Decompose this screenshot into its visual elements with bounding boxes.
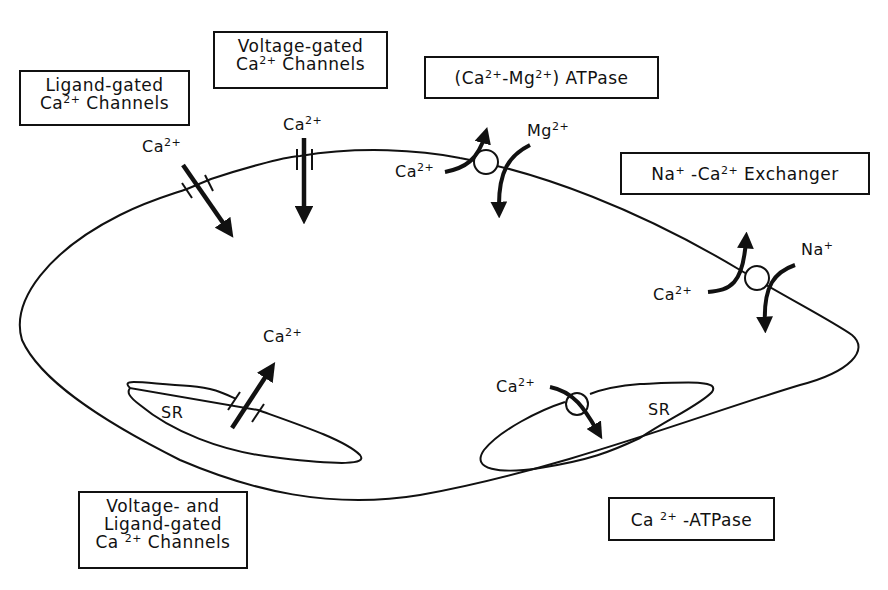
cell-membrane	[20, 150, 859, 500]
ion-label-atpase-mg: Mg2+	[527, 121, 569, 140]
ion-label-ligand-ca: Ca2+	[142, 137, 181, 156]
ligand-gated-label: Ligand-gated Ca2+ Channels	[19, 70, 190, 126]
label-line: Voltage-gated	[221, 37, 380, 55]
sr-left-label: SR	[161, 403, 183, 422]
label-line: Ca 2+ Channels	[86, 533, 240, 551]
ca-mg-atpase-transporter	[445, 135, 530, 210]
na-ca-exchanger-transporter	[708, 240, 795, 325]
voltage-ligand-gated-label: Voltage- and Ligand-gated Ca 2+ Channels	[78, 491, 248, 569]
ca-atpase-label: Ca 2+ -ATPase	[608, 497, 775, 541]
label-line: Ligand-gated	[27, 76, 182, 94]
na-ca-exchanger-label: Na+ -Ca2+ Exchanger	[620, 152, 870, 195]
ca-mg-atpase-label: (Ca2+-Mg2+) ATPase	[424, 56, 659, 99]
ion-label-exchanger-ca: Ca2+	[653, 285, 692, 304]
ion-label-atpase-ca: Ca2+	[395, 162, 434, 181]
ion-label-voltage-ca: Ca2+	[283, 115, 322, 134]
label-line: Ca2+ Channels	[27, 94, 182, 112]
label-line: Voltage- and	[86, 497, 240, 515]
ion-label-sr-uptake-ca: Ca2+	[496, 377, 535, 396]
ion-label-exchanger-na: Na+	[801, 240, 834, 259]
label-line: Ligand-gated	[86, 515, 240, 533]
ion-label-sr-release-ca: Ca2+	[263, 327, 302, 346]
voltage-gated-channel	[297, 138, 312, 215]
sr-right-label: SR	[648, 400, 670, 419]
voltage-gated-label: Voltage-gated Ca2+ Channels	[213, 31, 388, 89]
sr-release-channel	[228, 370, 270, 428]
label-line: Ca2+ Channels	[221, 55, 380, 73]
